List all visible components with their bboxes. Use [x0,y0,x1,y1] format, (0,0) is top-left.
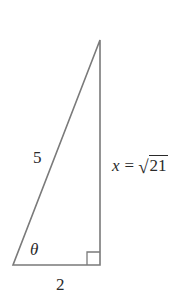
opposite-side-label: x = √ 21 [112,155,168,174]
square-root-icon: √ [138,157,148,176]
angle-theta-label: θ [30,241,38,258]
base-label: 2 [56,276,65,293]
hypotenuse-label: 5 [33,149,42,166]
equals-sign: = [125,157,135,174]
variable-x: x [112,157,120,174]
radicand: 21 [149,155,168,174]
triangle [13,40,100,265]
right-triangle-diagram [0,0,196,305]
right-angle-marker [87,252,100,265]
